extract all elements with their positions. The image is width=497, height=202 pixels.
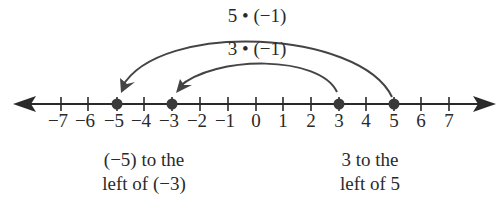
tick-label: 0 — [251, 110, 261, 132]
tick-label: −2 — [187, 110, 207, 132]
tick-label: −6 — [75, 110, 95, 132]
tick-label: 2 — [306, 110, 316, 132]
arc-label-outer: 5 • (−1) — [228, 5, 287, 27]
note-left-line1: (−5) to the — [102, 148, 186, 172]
tick-label: 1 — [278, 110, 288, 132]
tick-label: 7 — [444, 110, 454, 132]
tick-label: 5 — [389, 110, 399, 132]
tick-label: 4 — [361, 110, 371, 132]
arc-3-to-neg3 — [179, 64, 337, 92]
note-left: (−5) to the left of (−3) — [102, 148, 186, 196]
tick-label: −3 — [159, 110, 179, 132]
note-right-line2: left of 5 — [340, 172, 400, 196]
arc-label-inner: 3 • (−1) — [228, 38, 287, 60]
tick-label: −5 — [104, 110, 124, 132]
note-right: 3 to the left of 5 — [340, 148, 400, 196]
note-right-line1: 3 to the — [340, 148, 400, 172]
tick-label: 3 — [334, 110, 344, 132]
point-neg5 — [112, 99, 123, 110]
tick-label: −4 — [131, 110, 151, 132]
arc-arrowhead-icon — [176, 79, 192, 93]
point-neg3 — [167, 99, 178, 110]
point-5 — [389, 99, 400, 110]
tick-label: −7 — [48, 110, 68, 132]
note-left-line2: left of (−3) — [102, 172, 186, 196]
number-line-graphic — [0, 0, 497, 202]
point-3 — [334, 99, 345, 110]
tick-label: 6 — [416, 110, 426, 132]
tick-label: −1 — [215, 110, 235, 132]
